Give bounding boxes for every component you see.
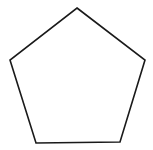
pentagon-figure [0, 0, 153, 150]
pentagon-shape [10, 8, 145, 143]
diagram-canvas [0, 0, 153, 150]
